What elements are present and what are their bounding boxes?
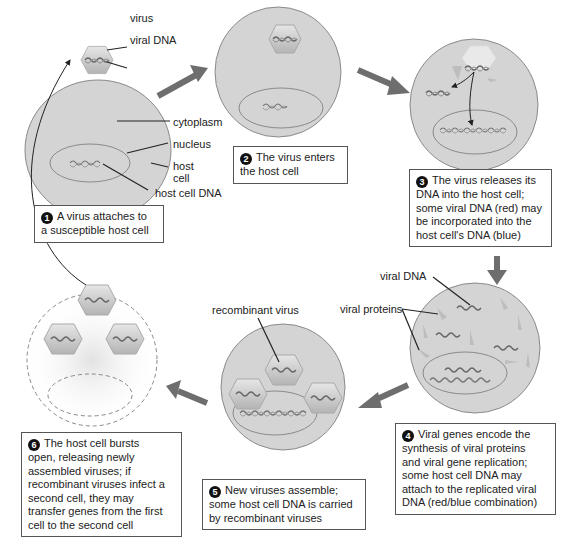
step-number-badge: 4 [402, 430, 414, 442]
step4-nucleus [423, 352, 507, 394]
label-viral-proteins: viral proteins [340, 303, 402, 315]
step1-caption: 1A virus attaches to a susceptible host … [34, 205, 164, 243]
step2-caption: 2The virus enters the host cell [233, 146, 348, 184]
step5-caption: 5New viruses assemble; some host cell DN… [202, 479, 366, 530]
released-virus-1 [78, 285, 116, 315]
arrow-step3-to-step4 [487, 256, 507, 285]
label-host-cell: host cell [173, 160, 194, 184]
step-number-badge: 2 [240, 153, 252, 165]
label-virus: virus [130, 12, 153, 24]
step1-cell [25, 46, 171, 220]
step2-cell [215, 7, 341, 137]
arrow-step4-to-step5 [358, 385, 408, 408]
step5-cell [221, 318, 345, 450]
label-recombinant-virus: recombinant virus [212, 304, 299, 316]
arrow-step1-to-step2 [158, 65, 208, 96]
step3-caption: 3The virus releases its DNA into the hos… [409, 169, 552, 247]
label-viral-dna: viral DNA [130, 34, 176, 46]
step-number-badge: 3 [416, 176, 428, 188]
step-number-badge: 5 [209, 486, 221, 498]
recombinant-virus-1 [265, 355, 303, 385]
step6-burst-cell [22, 285, 162, 430]
step-number-badge: 1 [41, 212, 53, 224]
step6-caption: 6The host cell bursts open, releasing ne… [21, 432, 182, 537]
label-nucleus: nucleus [173, 138, 211, 150]
released-virus-2 [44, 324, 82, 354]
arrow-step2-to-step3 [358, 70, 410, 95]
label-cytoplasm: cytoplasm [173, 116, 223, 128]
released-virus-3 [106, 324, 144, 354]
step4-caption: 4Viral genes encode the synthesis of vir… [395, 423, 556, 515]
recombinant-virus-3 [304, 383, 342, 413]
step1-virus [81, 46, 113, 73]
recombinant-virus-2 [229, 379, 267, 409]
step3-cell [410, 39, 538, 171]
step-number-badge: 6 [28, 439, 40, 451]
step2-virus [269, 25, 301, 53]
step4-cell [402, 277, 540, 413]
arrow-step5-to-step6 [166, 380, 207, 403]
label-viral-dna-step4: viral DNA [380, 270, 426, 282]
label-host-cell-dna: host cell DNA [155, 187, 222, 199]
